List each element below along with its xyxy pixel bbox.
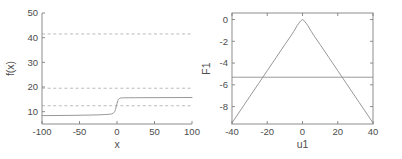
left-plot-svg: -100-500501001020304050xf(x) xyxy=(0,0,201,159)
figure-root: -100-500501001020304050xf(x) -40-2002040… xyxy=(0,0,402,159)
data-curve xyxy=(42,97,192,115)
y-tick-label: 50 xyxy=(27,7,38,18)
x-tick-label: 20 xyxy=(332,126,343,137)
x-tick-label: 100 xyxy=(184,126,200,137)
y-tick-label: -4 xyxy=(220,57,228,68)
right-plot-svg: -40-20020400-2-4-6-8u1F1 xyxy=(201,0,402,159)
y-tick-label: 10 xyxy=(27,106,38,117)
x-axis-title: x xyxy=(114,138,120,150)
y-axis-title: f(x) xyxy=(4,61,16,76)
x-tick-label: -20 xyxy=(260,126,274,137)
x-axis-title: u1 xyxy=(297,138,309,150)
axis-box xyxy=(232,13,373,124)
y-tick-label: 20 xyxy=(27,81,38,92)
plot-panel-left: -100-500501001020304050xf(x) xyxy=(0,0,201,159)
x-tick-label: -50 xyxy=(73,126,87,137)
y-tick-label: 0 xyxy=(223,14,228,25)
x-tick-label: -100 xyxy=(32,126,51,137)
y-axis-title: F1 xyxy=(201,62,212,74)
x-tick-label: 50 xyxy=(149,126,160,137)
y-tick-label: -6 xyxy=(220,79,228,90)
y-tick-label: 30 xyxy=(27,57,38,68)
x-tick-label: 0 xyxy=(300,126,305,137)
x-tick-label: -40 xyxy=(225,126,239,137)
plot-panel-right: -40-20020400-2-4-6-8u1F1 xyxy=(201,0,402,159)
y-tick-label: -2 xyxy=(220,36,228,47)
y-tick-label: 40 xyxy=(27,32,38,43)
y-tick-label: -8 xyxy=(220,101,228,112)
x-tick-label: 40 xyxy=(368,126,379,137)
x-tick-label: 0 xyxy=(114,126,119,137)
data-curve xyxy=(232,20,373,123)
